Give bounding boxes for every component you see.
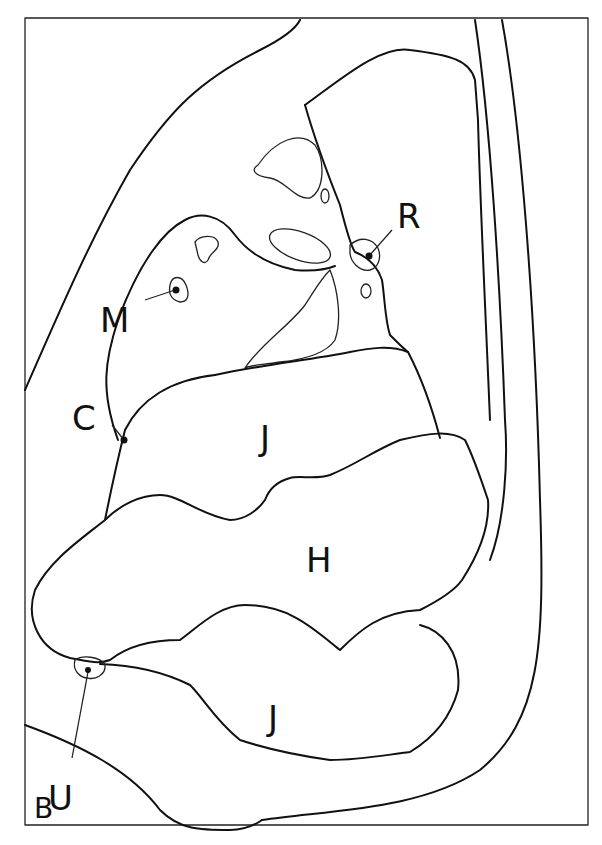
dot-u [85, 667, 91, 673]
j-lower-region [100, 625, 458, 760]
j-upper-left [105, 375, 215, 520]
dot-c [121, 437, 128, 444]
inner-contour [475, 20, 506, 560]
dot-r [366, 253, 373, 260]
label-m: M [100, 300, 129, 340]
upper-block-left-edge [305, 105, 408, 352]
anatomical-diagram: R M C J H J U B [0, 0, 602, 845]
label-h: H [306, 540, 332, 580]
hole-upper [254, 138, 322, 198]
dot-m [173, 287, 180, 294]
j-upper-top [215, 348, 440, 438]
wedge [245, 270, 339, 368]
left-contour [25, 20, 300, 390]
hole-m-upper [195, 236, 218, 262]
panel-label: B [34, 792, 53, 825]
outer-contour [262, 20, 541, 820]
label-c: C [72, 398, 96, 438]
inner-upper-region [118, 216, 335, 320]
label-r: R [397, 196, 421, 236]
pointer-r [369, 230, 392, 256]
label-j-lower: J [266, 698, 278, 738]
label-j-upper: J [258, 418, 270, 458]
h-region [32, 434, 488, 663]
pointer-u [72, 672, 88, 758]
hole-oval [265, 222, 335, 270]
hole-small-2 [361, 284, 371, 298]
hole-small-1 [321, 189, 329, 203]
